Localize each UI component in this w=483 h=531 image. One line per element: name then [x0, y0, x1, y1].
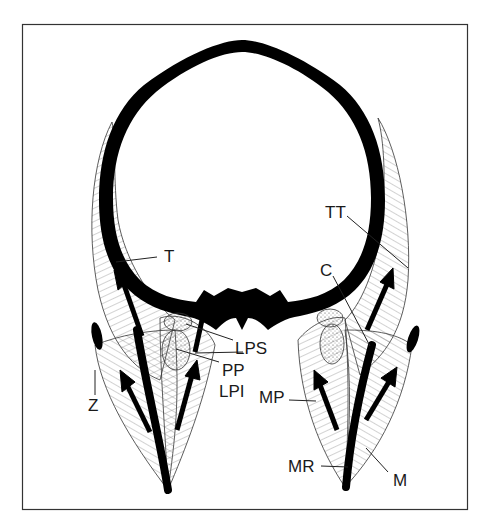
left-lps-structure — [164, 313, 192, 331]
anatomical-diagram: T TT C LPS PP LPI Z MP MR M — [0, 0, 483, 531]
label-tt: TT — [325, 203, 346, 222]
label-lps: LPS — [235, 339, 267, 358]
label-mp: MP — [259, 388, 285, 407]
label-lpi: LPI — [219, 382, 245, 401]
label-t: T — [164, 247, 174, 266]
label-m: M — [393, 471, 407, 490]
label-mr: MR — [288, 457, 314, 476]
label-pp: PP — [222, 361, 245, 380]
left-pp-structure — [162, 330, 190, 370]
right-pp-structure — [320, 324, 344, 364]
label-z: Z — [88, 396, 98, 415]
label-c: C — [320, 261, 332, 280]
